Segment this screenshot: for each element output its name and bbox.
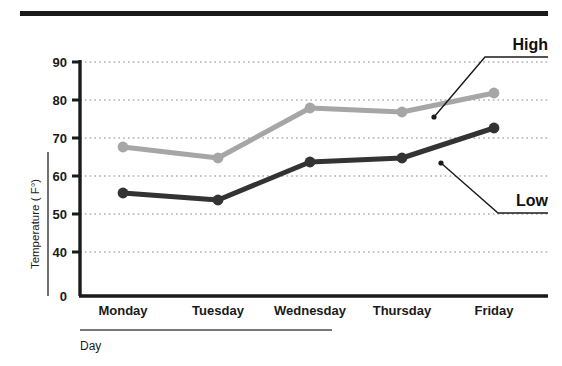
annotation-high-label: High [512,36,548,53]
y-tick-label-80: 80 [53,93,67,108]
annotation-high-leader-line [434,57,548,117]
x-axis-title: Day [80,339,101,353]
annotation-high: High [431,36,548,120]
annotation-low-label: Low [516,192,549,209]
x-axis-title-group: Day [80,330,332,353]
data-point-low-monday [118,188,129,199]
y-tick-label-60: 60 [53,169,67,184]
data-point-high-thursday [397,107,408,118]
annotation-high-leader-dot [431,114,436,119]
data-point-high-monday [118,142,129,153]
data-point-high-tuesday [213,153,224,164]
x-label-friday: Friday [474,303,514,318]
data-point-high-wednesday [305,103,316,114]
y-axis-title-group: Temperature ( F°) [29,152,48,296]
y-tick-label-40: 40 [53,245,67,260]
data-point-low-wednesday [305,157,316,168]
y-tick-label-70: 70 [53,131,67,146]
gridlines [80,62,548,252]
y-tick-label-0: 0 [60,289,67,304]
data-point-low-friday [489,123,500,134]
x-label-wednesday: Wednesday [274,303,347,318]
y-tick-label-50: 50 [53,207,67,222]
data-point-low-tuesday [213,195,224,206]
y-axis-title: Temperature ( F°) [29,179,41,269]
annotation-low-leader-dot [438,160,443,165]
y-tick-labels: 90 80 70 60 50 40 0 [53,55,67,304]
temperature-line-chart: 90 80 70 60 50 40 0 [0,0,562,366]
data-point-high-friday [489,88,500,99]
series-high [118,88,500,164]
x-label-monday: Monday [98,303,148,318]
x-label-thursday: Thursday [373,303,432,318]
chart-page: 90 80 70 60 50 40 0 [0,0,562,366]
x-category-labels: Monday Tuesday Wednesday Thursday Friday [98,303,514,318]
x-label-tuesday: Tuesday [192,303,245,318]
data-point-low-thursday [397,153,408,164]
annotation-low: Low [438,160,548,213]
y-tick-label-90: 90 [53,55,67,70]
